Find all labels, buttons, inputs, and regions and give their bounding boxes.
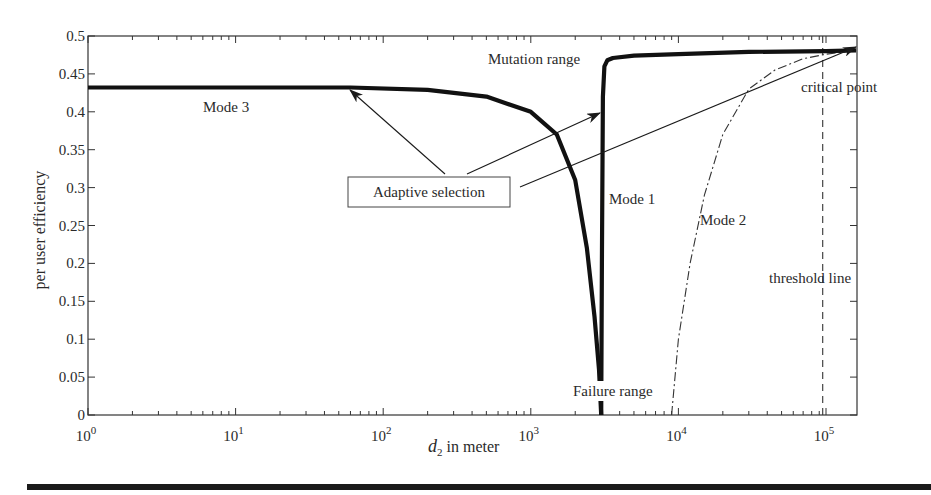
x-tick-label: 103 [519,424,540,444]
adaptive-selection-label: Adaptive selection [373,184,486,200]
efficiency-chart: 00.050.10.150.20.250.30.350.40.450.5 100… [0,0,931,495]
x-tick-label: 102 [371,424,392,444]
critical-point-label: critical point [801,79,878,95]
series-mode-3 [88,88,601,416]
bottom-rule [27,484,931,490]
y-tick-label: 0.05 [59,369,85,385]
y-tick-label: 0.4 [66,104,85,120]
series-mode-1 [601,50,856,415]
arrow-to-mode3 [350,90,445,174]
arrow-to-mode1 [467,113,600,174]
mode3-label: Mode 3 [203,99,249,115]
x-axis-ticks: 100101102103104105 [76,36,835,444]
x-tick-label: 105 [814,424,835,444]
y-tick-label: 0.3 [66,180,85,196]
x-tick-label: 100 [76,424,97,444]
y-tick-label: 0 [78,407,86,423]
threshold-line-label: threshold line [769,270,851,286]
y-tick-label: 0.45 [59,66,85,82]
y-tick-label: 0.5 [66,28,85,44]
mutation-range-label: Mutation range [488,51,580,67]
y-axis-title: per user efficiency [31,171,49,290]
y-tick-label: 0.2 [66,255,85,271]
mode2-label: Mode 2 [700,212,746,228]
y-tick-label: 0.15 [59,293,85,309]
y-tick-label: 0.25 [59,218,85,234]
x-tick-label: 104 [666,424,687,444]
y-tick-label: 0.35 [59,142,85,158]
y-tick-label: 0.1 [66,331,85,347]
failure-range-label: Failure range [573,383,653,399]
series-mode-2 [672,50,857,415]
x-axis-title: d2 in meter [428,436,500,458]
arrow-to-critical-point [520,47,856,187]
x-tick-label: 101 [223,424,244,444]
mode1-label: Mode 1 [609,191,655,207]
